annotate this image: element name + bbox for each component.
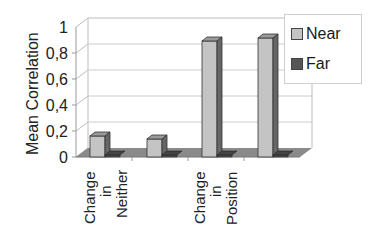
y-axis-ticks: 0 0,2 0,4 0,6 0,8 1: [46, 19, 68, 166]
bar-group-1: [90, 132, 125, 157]
x-label-line: Neither: [113, 170, 130, 218]
y-tick-0: 0: [59, 149, 68, 166]
bar-near-2: [147, 139, 162, 157]
far-swatch-icon: [291, 58, 303, 70]
y-axis-label: Mean Correlation: [24, 32, 41, 155]
legend: Near Far: [284, 14, 362, 84]
x-label-line: Position: [223, 172, 240, 225]
x-label-line: in: [207, 185, 224, 197]
bar-near-4: [258, 38, 273, 157]
x-label-line: Change: [81, 171, 98, 224]
bar-group-2: [147, 135, 182, 157]
y-tick-0.2: 0,2: [46, 123, 68, 140]
legend-label-far: Far: [306, 55, 330, 73]
legend-item-far: Far: [291, 55, 330, 73]
x-axis-label-group-1: Change in Neither: [81, 170, 130, 224]
y-tick-1: 1: [59, 19, 68, 36]
y-tick-0.8: 0,8: [46, 45, 68, 62]
y-tick-0.4: 0,4: [46, 97, 68, 114]
bar-near-1: [90, 136, 105, 157]
y-tick-0.6: 0,6: [46, 71, 68, 88]
legend-label-near: Near: [306, 25, 341, 43]
x-axis-label-group-2: Change in Position: [191, 171, 240, 225]
bar-group-3: [202, 37, 237, 157]
legend-item-near: Near: [291, 25, 341, 43]
near-swatch-icon: [291, 28, 303, 40]
x-label-line: in: [97, 185, 114, 197]
x-label-line: Change: [191, 171, 208, 224]
bar-near-3: [202, 41, 217, 157]
